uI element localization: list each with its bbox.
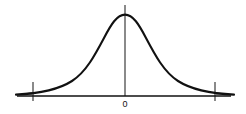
axis-tick-label-zero: 0 bbox=[115, 100, 135, 109]
normal-distribution-chart bbox=[0, 0, 246, 114]
normal-curve-figure: 0 bbox=[0, 0, 246, 114]
